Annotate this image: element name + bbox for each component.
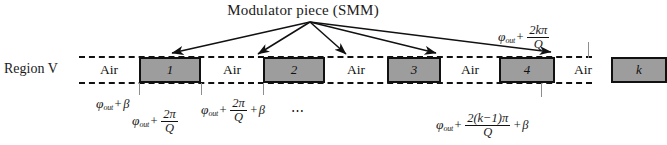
plus-sign: + bbox=[515, 30, 525, 44]
cell-air-3: Air bbox=[441, 57, 499, 83]
phase-label-k: φout+ 2(k−1)π Q +β bbox=[436, 112, 529, 140]
ellipsis: ⋯ bbox=[291, 103, 305, 119]
phase-label-3: φout+ 2π Q +β bbox=[201, 97, 265, 125]
cell-smm-k: k bbox=[611, 57, 667, 83]
region-label: Region V bbox=[4, 61, 58, 77]
fraction-numerator: 2π bbox=[230, 97, 247, 110]
arrow-to-block-1 bbox=[172, 22, 310, 53]
cell-label: 3 bbox=[411, 62, 418, 78]
plus-sign: + bbox=[218, 103, 228, 117]
cell-air-2: Air bbox=[325, 57, 387, 83]
cell-air-1: Air bbox=[201, 57, 263, 83]
beta-symbol: β bbox=[123, 97, 129, 111]
phi-subscript: out bbox=[443, 124, 453, 133]
cell-smm-3: 3 bbox=[387, 57, 441, 83]
cell-smm-2: 2 bbox=[263, 57, 325, 83]
plus-sign-2: + bbox=[512, 118, 522, 132]
fraction-numerator: 2(k−1)π bbox=[465, 112, 510, 125]
cell-air-4: Air bbox=[555, 57, 611, 83]
cell-label: 4 bbox=[524, 62, 531, 78]
fraction-numerator: 2π bbox=[161, 108, 178, 121]
cell-label: Air bbox=[574, 62, 592, 78]
fraction-denominator: Q bbox=[161, 121, 178, 136]
plus-sign: + bbox=[149, 114, 159, 128]
plus-sign: + bbox=[113, 97, 123, 111]
fraction: 2(k−1)π Q bbox=[465, 112, 510, 140]
fraction: 2π Q bbox=[161, 108, 178, 136]
phi-subscript: out bbox=[103, 103, 113, 112]
cell-label: Air bbox=[223, 62, 241, 78]
phase-label-top-right: φout+ 2kπ Q bbox=[498, 24, 551, 52]
fraction-denominator: Q bbox=[527, 37, 549, 52]
plus-sign: + bbox=[453, 118, 463, 132]
phase-label-2: φout+ 2π Q bbox=[132, 108, 180, 136]
fraction: 2kπ Q bbox=[527, 24, 549, 52]
waveguide-channel: Air 1 Air 2 Air 3 Air 4 Air k bbox=[79, 57, 592, 83]
arrow-to-block-2 bbox=[258, 22, 310, 54]
leader-tick-1-right bbox=[201, 83, 202, 95]
cell-smm-4: 4 bbox=[499, 57, 555, 83]
cell-air-0: Air bbox=[79, 57, 139, 83]
cell-smm-1: 1 bbox=[139, 57, 201, 83]
fraction: 2π Q bbox=[230, 97, 247, 125]
phi-subscript: out bbox=[139, 120, 149, 129]
fraction-numerator: 2kπ bbox=[527, 24, 549, 37]
beta-symbol: β bbox=[259, 103, 265, 117]
phi-subscript: out bbox=[208, 109, 218, 118]
fraction-denominator: Q bbox=[230, 110, 247, 125]
leader-tick-2-left bbox=[263, 83, 264, 95]
arrow-to-block-4 bbox=[310, 22, 436, 53]
phi-subscript: out bbox=[505, 36, 515, 45]
fraction-denominator: Q bbox=[465, 125, 510, 140]
cell-label: 1 bbox=[167, 62, 174, 78]
phase-label-1: φout+β bbox=[96, 97, 129, 112]
leader-tick-1-left bbox=[139, 83, 140, 95]
beta-symbol: β bbox=[522, 118, 528, 132]
plus-sign-2: + bbox=[249, 103, 259, 117]
cell-label: 2 bbox=[291, 62, 298, 78]
cell-label: Air bbox=[347, 62, 365, 78]
leader-tick-k-right bbox=[588, 42, 589, 58]
cell-label: k bbox=[636, 62, 642, 78]
cell-label: Air bbox=[461, 62, 479, 78]
leader-tick-k-left bbox=[541, 83, 542, 97]
cell-label: Air bbox=[100, 62, 118, 78]
